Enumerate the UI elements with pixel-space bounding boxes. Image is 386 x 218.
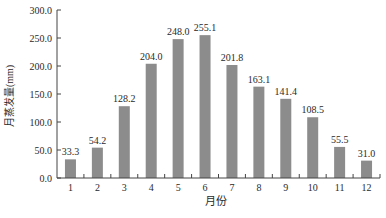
x-tick-label: 3 (122, 182, 127, 193)
bar-value-label: 204.0 (140, 51, 163, 62)
y-tick-label: 200.0 (30, 61, 53, 72)
bar-value-label: 201.8 (221, 52, 244, 63)
bar-month-11 (334, 147, 345, 178)
bar-value-label: 128.2 (113, 93, 136, 104)
bar-month-8 (253, 87, 264, 178)
x-tick-label: 2 (95, 182, 100, 193)
x-tick-label: 5 (176, 182, 181, 193)
x-axis-title: 月份 (205, 195, 227, 207)
x-tick-label: 7 (229, 182, 234, 193)
bar-value-label: 248.0 (167, 26, 190, 37)
bar-value-label: 55.5 (331, 134, 349, 145)
bar-month-4 (146, 64, 157, 178)
bar-value-label: 31.0 (358, 148, 376, 159)
bar-month-7 (226, 65, 237, 178)
x-tick-label: 9 (283, 182, 288, 193)
x-tick-label: 1 (68, 182, 73, 193)
bar-value-label: 54.2 (89, 135, 107, 146)
y-tick-label: 100.0 (30, 117, 53, 128)
bar-month-1 (65, 159, 76, 178)
x-tick-label: 4 (149, 182, 154, 193)
x-axis: 123456789101112 (57, 174, 380, 193)
bar-month-3 (119, 106, 130, 178)
bar-value-label: 108.5 (301, 104, 324, 115)
y-tick-label: 0.0 (40, 173, 53, 184)
bar-value-label: 163.1 (248, 74, 271, 85)
x-tick-label: 10 (308, 182, 318, 193)
y-tick-label: 300.0 (30, 5, 53, 16)
y-axis-title: 月蒸发量(mm) (3, 65, 16, 127)
bar-month-12 (361, 161, 372, 178)
y-tick-label: 50.0 (35, 145, 53, 156)
x-tick-label: 11 (335, 182, 345, 193)
bars-group (65, 35, 372, 178)
y-tick-label: 250.0 (30, 33, 53, 44)
bar-month-2 (92, 148, 103, 178)
bar-value-label: 255.1 (194, 22, 217, 33)
bar-month-6 (200, 35, 211, 178)
bar-month-10 (307, 117, 318, 178)
bar-month-9 (280, 99, 291, 178)
bar-value-label: 33.3 (62, 146, 80, 157)
x-tick-label: 12 (362, 182, 372, 193)
bar-chart: 33.354.2128.2204.0248.0255.1201.8163.114… (0, 0, 386, 218)
y-axis: 0.050.0100.0150.0200.0250.0300.0 (30, 5, 62, 184)
y-tick-label: 150.0 (30, 89, 53, 100)
x-tick-label: 8 (256, 182, 261, 193)
bar-value-label: 141.4 (275, 86, 298, 97)
x-tick-label: 6 (203, 182, 208, 193)
bar-month-5 (173, 39, 184, 178)
value-labels-group: 33.354.2128.2204.0248.0255.1201.8163.114… (62, 22, 376, 158)
